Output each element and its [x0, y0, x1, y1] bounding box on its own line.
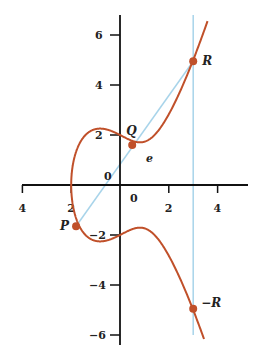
point-neg-r	[189, 305, 197, 313]
y-tick-label: −4	[89, 279, 106, 292]
curve-lower-branch	[71, 185, 204, 339]
x-tick-label: 4	[214, 202, 222, 215]
point-label-neg-r: −R	[201, 296, 221, 310]
point-label-p: P	[59, 219, 70, 233]
annotation-e: e	[146, 152, 153, 165]
point-q	[128, 141, 136, 149]
x-tick-label: 2	[165, 202, 173, 215]
y-tick-label: 6	[95, 29, 103, 42]
y-tick-label: 2	[95, 129, 103, 142]
x-tick-label: 0	[130, 192, 138, 205]
origin-label: 0	[104, 170, 112, 183]
y-tick-label: 4	[95, 79, 103, 92]
point-r	[189, 57, 197, 65]
elliptic-curve-diagram: 42024 642−2−4−6 0 e PQR−R	[0, 0, 262, 360]
x-tick-label: 4	[18, 202, 26, 215]
y-tick-label: −6	[89, 329, 106, 342]
curve-upper-branch	[71, 21, 207, 185]
curve-points: PQR−R	[59, 54, 221, 313]
point-p	[72, 222, 80, 230]
point-label-q: Q	[126, 124, 137, 138]
point-label-r: R	[201, 54, 212, 68]
